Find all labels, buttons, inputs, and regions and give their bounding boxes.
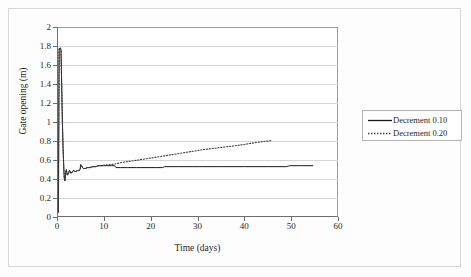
x-tick-label: 50: [287, 222, 296, 231]
x-tick-label: 60: [334, 222, 343, 231]
x-tick-label: 20: [146, 222, 155, 231]
y-axis-title: Gate opening (m): [18, 26, 28, 176]
legend-label-decrement-020: Decrement 0.20: [393, 129, 447, 138]
y-tick-label: 0.8: [40, 137, 51, 146]
legend-dotted-line-icon: [367, 129, 393, 138]
plot-area: 00.20.40.60.811.21.41.61.82 010203040506…: [57, 27, 338, 217]
y-tick-label: 0.2: [40, 194, 51, 203]
y-tick-label: 1.2: [40, 99, 51, 108]
series-canvas: [57, 27, 338, 217]
y-tick-label: 0.4: [40, 175, 51, 184]
y-tick-label: 1.8: [40, 42, 51, 51]
x-axis-title: Time (days): [57, 243, 338, 253]
y-tick-label: 1.4: [40, 80, 51, 89]
y-tick-label: 0.6: [40, 156, 51, 165]
x-tick-label: 0: [55, 222, 60, 231]
y-tick-label: 2: [47, 23, 52, 32]
x-tick-label: 40: [240, 222, 249, 231]
y-tick-label: 1: [47, 118, 52, 127]
legend-item-decrement-010: Decrement 0.10: [367, 114, 457, 126]
x-tick-label: 30: [193, 222, 202, 231]
y-tick-label: 0: [47, 213, 52, 222]
y-tick-label: 1.6: [40, 61, 51, 70]
figure-container: Gate opening (m) 00.20.40.60.811.21.41.6…: [0, 0, 471, 277]
legend-item-decrement-020: Decrement 0.20: [367, 127, 457, 139]
legend-label-decrement-010: Decrement 0.10: [393, 116, 447, 125]
series-line-2: [58, 48, 271, 212]
series-line-1: [58, 48, 312, 212]
legend-solid-line-icon: [367, 116, 393, 125]
x-tick-label: 10: [99, 222, 108, 231]
chart-legend: Decrement 0.10 Decrement 0.20: [362, 110, 462, 141]
